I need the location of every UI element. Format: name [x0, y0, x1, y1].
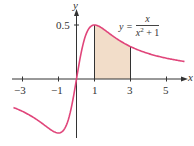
y-axis-label: y [73, 0, 78, 11]
den-rest: + 1 [144, 27, 160, 38]
x-tick-label-neg3: −3 [14, 85, 26, 96]
equation-fraction: x x2 + 1 [136, 14, 160, 38]
equation-label: y = x x2 + 1 [119, 14, 159, 38]
x-axis-arrow-icon [181, 77, 188, 82]
x-tick-label-3: 3 [127, 85, 133, 96]
x-tick-label-neg1: −1 [51, 85, 63, 96]
y-tick-label-0.5: 0.5 [56, 20, 70, 31]
equation-denominator: x2 + 1 [136, 26, 160, 38]
x-tick-label-5: 5 [163, 85, 169, 96]
x-axis-label: x [188, 72, 193, 83]
equation-lhs: y = [119, 21, 133, 32]
equation-numerator: x [143, 14, 151, 25]
function-plot [0, 0, 194, 146]
x-tick-label-1: 1 [92, 85, 98, 96]
